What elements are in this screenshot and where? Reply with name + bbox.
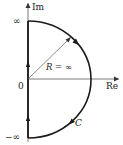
bottom-infinity-label: −∞ — [5, 132, 20, 142]
nyquist-contour-diagram: Im Re 0 ∞ −∞ R = ∞ C — [0, 0, 123, 145]
imaginary-axis-label: Im — [32, 2, 45, 12]
radius-label: R = ∞ — [45, 62, 72, 72]
arrow-up-icon — [26, 115, 30, 121]
contour-label: C — [75, 118, 82, 128]
origin-label: 0 — [18, 81, 24, 91]
real-axis-label: Re — [106, 81, 118, 91]
top-infinity-label: ∞ — [13, 16, 21, 26]
arrow-up-icon — [26, 61, 30, 67]
radius-line — [28, 39, 69, 79]
